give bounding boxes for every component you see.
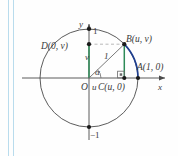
point-dot-y-top — [87, 27, 91, 31]
point-label-O: O — [81, 82, 88, 92]
point-label-C: C(u, 0) — [98, 82, 125, 93]
radius-length-label: 1 — [104, 51, 109, 61]
x-axis-label: x — [157, 82, 162, 92]
point-label-B: B(u, v) — [126, 34, 152, 45]
y-tick-label-negative-one: −1 — [90, 130, 100, 140]
arc-highlight-B-to-A — [124, 44, 138, 78]
point-label-D: D(0, v) — [40, 41, 68, 52]
angle-label: α — [95, 67, 100, 77]
x-axis-arrow-icon — [159, 75, 165, 80]
point-dot-A — [136, 76, 140, 80]
point-dot-D — [87, 42, 91, 46]
horizontal-leg-label: u — [92, 82, 97, 92]
point-dot-y-bottom — [87, 125, 91, 129]
point-label-A: A(1, 0) — [136, 62, 163, 73]
y-axis-label: y — [78, 19, 83, 29]
figure-canvas: y x 1 −1 B(u, v) A(1, 0) C(u, 0) D(0, v)… — [0, 0, 178, 156]
unit-circle-svg: y x 1 −1 B(u, v) A(1, 0) C(u, 0) D(0, v)… — [0, 0, 178, 156]
vertical-leg-label: v — [85, 52, 89, 62]
right-angle-dot — [120, 73, 123, 76]
point-dot-C — [122, 76, 126, 80]
y-tick-label-one: 1 — [93, 26, 98, 36]
